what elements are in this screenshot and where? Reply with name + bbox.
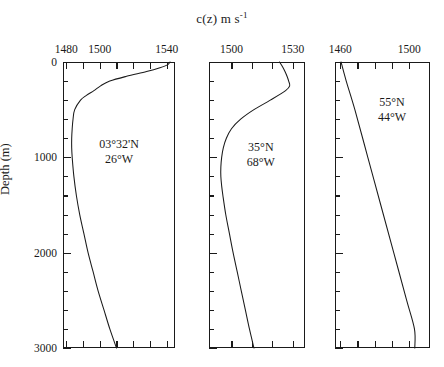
- chart-title: c(z) m s-1: [0, 10, 444, 27]
- panel-1-xlabel-1500: 1500: [88, 43, 111, 55]
- panel-2-xtick-top-1500: [231, 62, 232, 69]
- panel-1-xtick-bottom-1530: [150, 341, 151, 348]
- panel-1-ytick-1000: [63, 157, 71, 158]
- panel-2-ytick-2400: [209, 291, 214, 292]
- panel-2-ytick-1600: [209, 215, 214, 216]
- panel-1-ytick-1400: [63, 195, 68, 196]
- panel-1-site-label: 03°32'N 26°W: [99, 137, 139, 166]
- panel-3-ytick-2400: [335, 291, 340, 292]
- panel-1-ytick-1600: [63, 215, 68, 216]
- panel-3-xtick-top-1470: [357, 62, 358, 69]
- panel-3-ytick-2200: [335, 272, 340, 273]
- panel-3-xtick-bottom-1500: [409, 341, 410, 348]
- panel-2-longitude: 68°W: [247, 155, 275, 170]
- panel-1-ytick-600: [63, 119, 68, 120]
- panel-1-latitude: 03°32'N: [99, 137, 139, 152]
- panel-2-curve: [209, 62, 305, 348]
- panel-3-ytick-200: [335, 81, 340, 82]
- panel-3-xlabel-1500: 1500: [398, 43, 421, 55]
- panel-1-longitude: 26°W: [99, 152, 139, 167]
- panel-1-ytick-2400: [63, 291, 68, 292]
- panel-1-xtick-top-1490: [83, 62, 84, 69]
- panel-3-ytick-1200: [335, 176, 340, 177]
- panel-2-xtick-bottom-1520: [272, 341, 273, 348]
- panel-1-ytick-1800: [63, 234, 68, 235]
- panel-1-ytick-800: [63, 138, 68, 139]
- panel-3-ytick-2800: [335, 329, 340, 330]
- panel-1-ytick-3000: [63, 348, 71, 349]
- sound-speed-profile-figure: c(z) m s-1 Depth (m) 03°32'N 26°W 148015…: [0, 0, 444, 367]
- panel-1-ytick-2800: [63, 329, 68, 330]
- panel-2-site-label: 35°N 68°W: [247, 140, 275, 169]
- panel-2-ytick-400: [209, 100, 214, 101]
- panel-1-ytick-0: [63, 62, 71, 63]
- panel-2-ytick-0: [209, 62, 217, 63]
- y-axis-label-2000: 2000: [34, 247, 57, 259]
- panel-1-xtick-bottom-1500: [100, 341, 101, 348]
- panel-2-ytick-1200: [209, 176, 214, 177]
- panel-3-ytick-1000: [335, 157, 343, 158]
- panel-3-xtick-bottom-1460: [340, 341, 341, 348]
- panel-1-xtick-bottom-1480: [66, 341, 67, 348]
- panel-2-latitude: 35°N: [247, 140, 275, 155]
- panel-3-ytick-2600: [335, 310, 340, 311]
- panel-3-ytick-1400: [335, 195, 340, 196]
- panel-2-xlabel-1530: 1530: [281, 43, 304, 55]
- panel-2-xtick-top-1530: [293, 62, 294, 69]
- panel-3-ytick-400: [335, 100, 340, 101]
- panel-1-xtick-bottom-1510: [116, 341, 117, 348]
- panel-3-ytick-1800: [335, 234, 340, 235]
- panel-1-xtick-top-1500: [100, 62, 101, 69]
- panel-2-xtick-bottom-1510: [252, 341, 253, 348]
- panel-2-ytick-600: [209, 119, 214, 120]
- panel-1-xtick-bottom-1520: [133, 341, 134, 348]
- panel-3-ytick-800: [335, 138, 340, 139]
- panel-3-longitude: 44°W: [378, 110, 406, 125]
- panel-2-xtick-bottom-1500: [231, 341, 232, 348]
- panel-2-ytick-2200: [209, 272, 214, 273]
- panel-3-xtick-bottom-1470: [357, 341, 358, 348]
- panel-2-ytick-2600: [209, 310, 214, 311]
- panel-2-ytick-800: [209, 138, 214, 139]
- chart-title-exponent: -1: [240, 10, 248, 20]
- panel-1-xtick-top-1510: [116, 62, 117, 69]
- panel-3-xtick-bottom-1490: [392, 341, 393, 348]
- panel-2-ytick-2000: [209, 253, 217, 254]
- panel-2-curve-path: [221, 62, 290, 348]
- panel-3-xtick-top-1480: [375, 62, 376, 69]
- panel-1-curve: [63, 62, 175, 348]
- panel-1-curve-path: [72, 62, 170, 348]
- panel-1-xtick-top-1530: [150, 62, 151, 69]
- panel-3-xtick-top-1490: [392, 62, 393, 69]
- panel-1-ytick-2600: [63, 310, 68, 311]
- panel-1-xlabel-1540: 1540: [155, 43, 178, 55]
- panel-1-xlabel-1480: 1480: [55, 43, 78, 55]
- panel-2-xtick-top-1510: [252, 62, 253, 69]
- panel-3-latitude: 55°N: [378, 95, 406, 110]
- y-axis-title: Depth (m): [0, 143, 13, 195]
- panel-1-ytick-400: [63, 100, 68, 101]
- panel-2-ytick-2800: [209, 329, 214, 330]
- panel-2-ytick-200: [209, 81, 214, 82]
- panel-1-xtick-top-1540: [167, 62, 168, 69]
- panel-1-ytick-2000: [63, 253, 71, 254]
- panel-2-ytick-1800: [209, 234, 214, 235]
- panel-3-site-label: 55°N 44°W: [378, 95, 406, 124]
- panel-3-ytick-0: [335, 62, 343, 63]
- y-axis-label-3000: 3000: [34, 342, 57, 354]
- panel-3-ytick-3000: [335, 348, 343, 349]
- panel-3-ytick-1600: [335, 215, 340, 216]
- chart-title-text: c(z) m s: [196, 11, 239, 26]
- panel-2-xtick-bottom-1530: [293, 341, 294, 348]
- panel-profile-2: 35°N 68°W 15001530: [209, 62, 305, 348]
- panel-3-xtick-bottom-1480: [375, 341, 376, 348]
- panel-profile-3: 55°N 44°W 14601500: [335, 62, 430, 348]
- panel-1-xtick-bottom-1540: [167, 341, 168, 348]
- panel-2-xlabel-1500: 1500: [220, 43, 243, 55]
- panel-3-ytick-2000: [335, 253, 343, 254]
- panel-2-ytick-3000: [209, 348, 217, 349]
- panel-1-xtick-bottom-1490: [83, 341, 84, 348]
- panel-3-ytick-600: [335, 119, 340, 120]
- panel-3-xtick-top-1500: [409, 62, 410, 69]
- panel-1-xtick-top-1520: [133, 62, 134, 69]
